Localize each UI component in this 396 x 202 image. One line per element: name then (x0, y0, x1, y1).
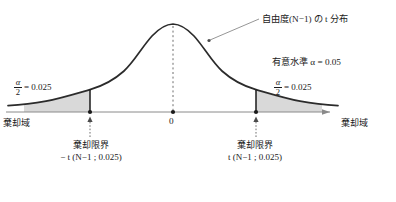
left-critical-value-title: 棄却限界 (36, 140, 146, 150)
right-critical-value-title: 棄却限界 (200, 140, 310, 150)
t-distribution-figure: 自由度(N−1) の t 分布 有意水準 α = 0.05 α 2 = 0.02… (0, 0, 396, 202)
left-tail-fraction-denominator: 2 (15, 88, 21, 97)
right-tail-fraction-denominator: 2 (275, 88, 281, 97)
significance-level-label: 有意水準 α = 0.05 (272, 57, 341, 68)
left-critical-value-formula: − t (N−1 ; 0.025) (36, 152, 146, 162)
right-critical-pointer-arrowhead (253, 117, 258, 123)
left-tail-value: = 0.025 (24, 82, 52, 92)
right-rejection-region-label: 棄却域 (341, 118, 368, 128)
right-tail-value: = 0.025 (284, 82, 312, 92)
right-critical-value-callout: 棄却限界 t (N−1 ; 0.025) (200, 140, 310, 163)
origin-point-marker (171, 110, 175, 114)
left-tail-fraction: α 2 (14, 78, 22, 97)
right-critical-point-marker (254, 110, 258, 114)
left-critical-value-callout: 棄却限界 − t (N−1 ; 0.025) (36, 140, 146, 163)
right-critical-value-formula: t (N−1 ; 0.025) (200, 152, 310, 162)
distribution-annotation-anchor-dot (207, 39, 210, 42)
right-tail-area-label: α 2 = 0.025 (274, 78, 312, 97)
left-tail-area-label: α 2 = 0.025 (14, 78, 52, 97)
left-critical-point-marker (88, 110, 92, 114)
left-rejection-region-label: 棄却域 (3, 118, 30, 128)
distribution-annotation-label: 自由度(N−1) の t 分布 (262, 14, 348, 25)
origin-axis-label: 0 (169, 116, 174, 127)
distribution-plot (0, 0, 396, 202)
left-critical-pointer-arrowhead (87, 117, 92, 123)
right-tail-fraction: α 2 (274, 78, 282, 97)
right-tail-fraction-numerator: α (275, 78, 282, 87)
x-axis-arrowhead (322, 109, 330, 115)
distribution-annotation-leader-line (210, 19, 259, 40)
left-tail-fraction-numerator: α (15, 78, 22, 87)
